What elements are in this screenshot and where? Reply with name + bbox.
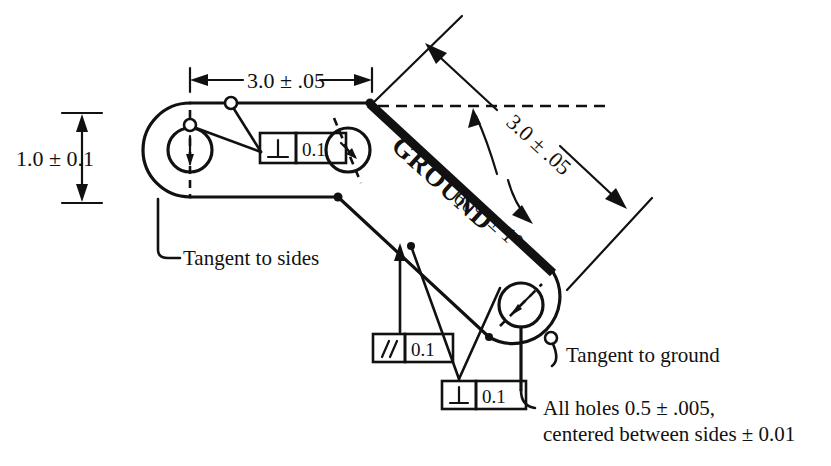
all-holes-leader xyxy=(521,390,535,408)
tangent-ground-leader-origin xyxy=(545,332,557,344)
note-tangent-ground: Tangent to ground xyxy=(545,332,720,367)
fcf-bottom-center[interactable]: 0.1 xyxy=(411,246,526,409)
vertex-top-corner xyxy=(366,99,375,108)
vertex-bottom-corner xyxy=(334,193,343,202)
height-arrow-up xyxy=(76,114,88,132)
fcf-top-left-tolerance-text: 0.1 xyxy=(302,139,326,160)
note-tangent-sides: Tangent to sides xyxy=(158,199,319,270)
ground-label: GROUND xyxy=(386,130,500,237)
fcf-top-left-leader-upper xyxy=(234,109,261,152)
fcf-bottom-left-symbol-cell xyxy=(373,334,405,362)
dimension-horizontal: 3.0 ± .05 xyxy=(190,68,372,93)
horiz-arrow-right xyxy=(354,74,372,86)
fcf-bottom-center-tolerance-text: 0.1 xyxy=(482,386,506,407)
horiz-arrow-left xyxy=(190,74,208,86)
tangent-ground-leader xyxy=(552,344,556,366)
diagonal-ext-line-lower xyxy=(567,198,652,290)
note-all-holes: All holes 0.5 ± .005, centered between s… xyxy=(521,390,795,446)
fcf-top-left[interactable]: 0.1 xyxy=(184,97,346,163)
all-holes-text-line2: centered between sides ± 0.01 xyxy=(543,422,795,446)
perpendicularity-icon-2 xyxy=(450,387,468,403)
height-arrow-down xyxy=(76,184,88,202)
drawing-canvas: 1.0 ± 0.1 3.0 ± .05 3.0 ± .05 GROUND xyxy=(0,0,831,466)
vertex-lower-edge-point xyxy=(407,242,415,250)
fcf-top-left-leader-origin-upper xyxy=(225,97,237,109)
angle-arc xyxy=(476,116,497,174)
tangent-sides-leader xyxy=(158,199,180,258)
parallelism-icon xyxy=(382,341,397,357)
fcf-bottom-center-leader-b xyxy=(459,288,500,379)
horizontal-dim-text: 3.0 ± .05 xyxy=(247,68,325,93)
fcf-top-left-leader-lower xyxy=(196,128,261,152)
engineering-drawing: 1.0 ± 0.1 3.0 ± .05 3.0 ± .05 GROUND xyxy=(0,0,831,466)
dimension-height: 1.0 ± 0.1 xyxy=(16,113,102,203)
vertex-right-lower xyxy=(485,333,493,341)
perpendicularity-icon xyxy=(268,140,288,157)
height-dim-text: 1.0 ± 0.1 xyxy=(16,146,94,171)
hole-middle xyxy=(326,118,370,183)
diagonal-ext-line-upper xyxy=(372,16,462,104)
angle-arrow-lower xyxy=(512,205,533,224)
fcf-bottom-left-tolerance-text: 0.1 xyxy=(411,339,435,360)
all-holes-text-line1: All holes 0.5 ± .005, xyxy=(543,396,715,420)
fcf-top-left-leader-origin-lower xyxy=(184,119,196,131)
diagonal-dim-text: 3.0 ± .05 xyxy=(502,109,577,180)
tangent-sides-text: Tangent to sides xyxy=(183,246,319,270)
fcf-bottom-left[interactable]: 0.1 xyxy=(373,243,453,362)
tangent-ground-text: Tangent to ground xyxy=(566,343,720,367)
